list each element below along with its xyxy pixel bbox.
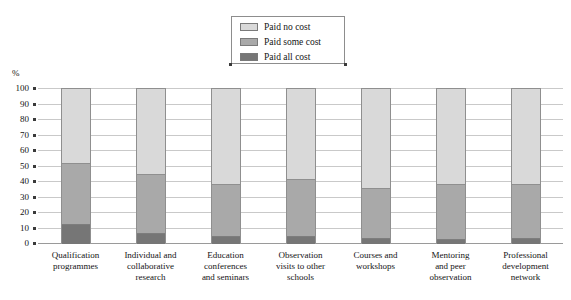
chart-legend: Paid no cost Paid some cost Paid all cos…: [231, 16, 345, 64]
bar-segment[interactable]: [437, 184, 465, 240]
legend-swatch-icon: [240, 38, 258, 46]
legend-swatch-icon: [240, 23, 258, 31]
x-axis-category-label: Individual andcollaborativeresearch: [114, 250, 188, 283]
stacked-bar-chart: Paid no cost Paid some cost Paid all cos…: [0, 0, 571, 300]
x-axis-category-label: Observationvisits to otherschools: [264, 250, 338, 283]
legend-anchor-left-icon: [229, 63, 232, 66]
y-axis-tick-label: 50: [20, 161, 29, 170]
y-axis-tick-label: 30: [20, 192, 29, 201]
y-axis-tick-mark-icon: [33, 118, 36, 121]
legend-anchor-right-icon: [344, 63, 347, 66]
y-axis-tick-mark-icon: [33, 196, 36, 199]
y-axis-tick-mark-icon: [33, 242, 36, 245]
y-axis-unit-label: %: [12, 68, 20, 78]
y-axis-tick-label: 100: [16, 84, 30, 93]
legend-item-label: Paid some cost: [264, 37, 321, 47]
bar-stack[interactable]: [211, 88, 241, 243]
y-axis-tick-label: 10: [20, 223, 29, 232]
legend-item-label: Paid no cost: [264, 22, 310, 32]
x-axis-category-label: Courses andworkshops: [339, 250, 413, 272]
y-axis-tick-label: 0: [25, 239, 30, 248]
x-axis-category-label: Mentoringand peerobservation: [414, 250, 488, 283]
bar-stack[interactable]: [136, 88, 166, 243]
legend-item-paid-some-cost: Paid some cost: [240, 35, 344, 49]
legend-item-label: Paid all cost: [264, 52, 310, 62]
bar-segment[interactable]: [212, 236, 240, 244]
y-axis-tick-label: 70: [20, 130, 29, 139]
x-axis-category-label: Qualificationprogrammes: [39, 250, 113, 272]
y-axis-tick-mark-icon: [33, 211, 36, 214]
bar-segment[interactable]: [62, 163, 90, 223]
bar-stack[interactable]: [61, 88, 91, 243]
bar-segment[interactable]: [137, 233, 165, 244]
legend-swatch-icon: [240, 53, 258, 61]
y-axis-tick-label: 20: [20, 208, 29, 217]
bar-segment[interactable]: [362, 238, 390, 244]
bar-segment[interactable]: [212, 89, 240, 184]
bar-segment[interactable]: [137, 89, 165, 174]
y-axis-tick-mark-icon: [33, 103, 36, 106]
bar-stack[interactable]: [286, 88, 316, 243]
y-axis-tick-label: 40: [20, 177, 29, 186]
x-axis-category-label: Educationconferencesand seminars: [189, 250, 263, 283]
bar-segment[interactable]: [137, 174, 165, 233]
bar-segment[interactable]: [362, 89, 390, 188]
bar-segment[interactable]: [287, 236, 315, 244]
bar-segment[interactable]: [362, 188, 390, 238]
y-axis-tick-mark-icon: [33, 165, 36, 168]
y-axis-tick-mark-icon: [33, 227, 36, 230]
bar-segment[interactable]: [62, 224, 90, 244]
y-axis-tick-mark-icon: [33, 149, 36, 152]
bar-segment[interactable]: [512, 238, 540, 244]
bar-segment[interactable]: [287, 179, 315, 236]
y-axis-tick-mark-icon: [33, 180, 36, 183]
bar-stack[interactable]: [361, 88, 391, 243]
bar-segment[interactable]: [437, 89, 465, 184]
y-axis-tick-label: 90: [20, 99, 29, 108]
y-axis-tick-label: 60: [20, 146, 29, 155]
bar-segment[interactable]: [512, 89, 540, 184]
bar-segment[interactable]: [512, 184, 540, 238]
x-axis-category-label: Professionaldevelopmentnetwork: [489, 250, 563, 283]
legend-item-paid-all-cost: Paid all cost: [240, 50, 344, 64]
bar-segment[interactable]: [62, 89, 90, 163]
y-axis-tick-label: 80: [20, 115, 29, 124]
bar-segment[interactable]: [437, 239, 465, 244]
plot-area: 1009080706050403020100: [38, 88, 563, 243]
bar-stack[interactable]: [511, 88, 541, 243]
bar-segment[interactable]: [287, 89, 315, 179]
y-axis-tick-mark-icon: [33, 87, 36, 90]
legend-item-paid-no-cost: Paid no cost: [240, 20, 344, 34]
bar-segment[interactable]: [212, 184, 240, 237]
bar-stack[interactable]: [436, 88, 466, 243]
y-axis-tick-mark-icon: [33, 134, 36, 137]
